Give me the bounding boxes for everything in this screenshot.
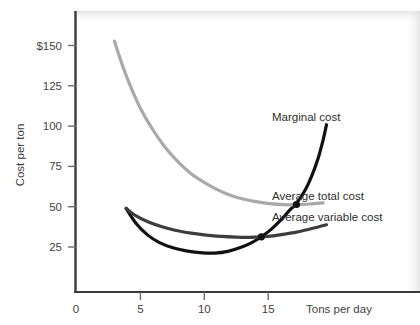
y-tick-label-75: 75 <box>49 160 62 172</box>
average-variable-cost-label: Average variable cost <box>272 211 383 223</box>
mc-crosses-avc-minimum <box>258 233 265 240</box>
y-tick-label-150: $150 <box>36 40 62 52</box>
y-tick-label-25: 25 <box>49 241 62 253</box>
x-axis-title: Tons per day <box>306 303 372 315</box>
plot-right-shadow <box>404 11 420 293</box>
marginal-cost-label: Marginal cost <box>272 111 341 123</box>
y-tick-label-125: 125 <box>43 80 62 92</box>
x-tick-label-10: 10 <box>198 303 211 315</box>
average-total-cost-label: Average total cost <box>272 190 365 202</box>
x-tick-label-0: 0 <box>73 303 79 315</box>
mc-crosses-atc-minimum <box>293 201 300 208</box>
plot-area-background <box>74 11 420 293</box>
cost-curves-figure: $150 125 100 75 50 25 0 5 10 15 Tons per… <box>0 0 420 325</box>
x-tick-label-5: 5 <box>137 303 143 315</box>
y-tick-label-100: 100 <box>43 120 62 132</box>
x-tick-label-15: 15 <box>262 303 275 315</box>
y-axis-title: Cost per ton <box>14 124 26 187</box>
y-tick-label-50: 50 <box>49 201 62 213</box>
chart-canvas: $150 125 100 75 50 25 0 5 10 15 Tons per… <box>0 0 420 325</box>
plot-top-shadow <box>74 11 420 24</box>
